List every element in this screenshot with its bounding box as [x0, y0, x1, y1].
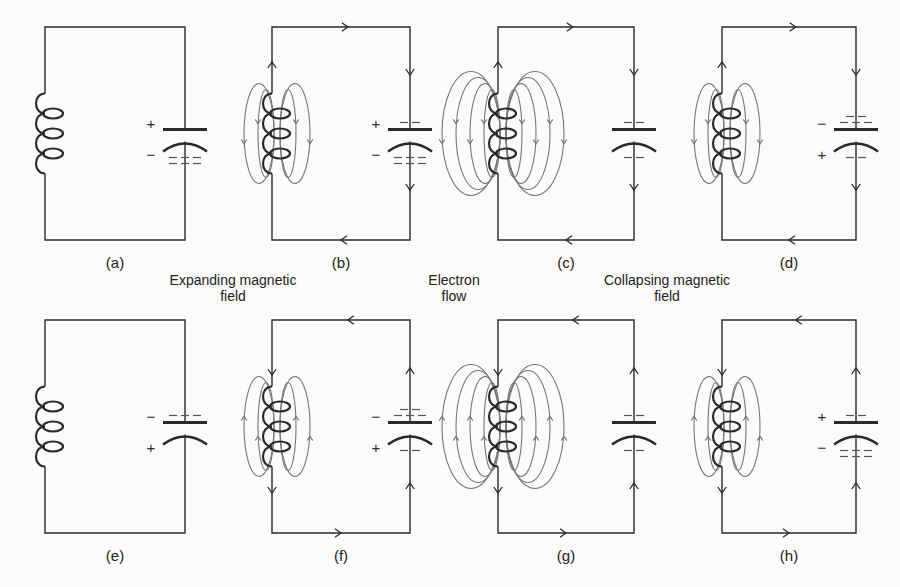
inductor-coil-icon: [489, 94, 516, 174]
wire: [272, 320, 410, 423]
caption-collapsing-line2: field: [604, 288, 730, 304]
wire: [722, 320, 856, 423]
inductor-coil-icon: [713, 387, 740, 467]
panel-label-e: (e): [106, 547, 124, 564]
inductor-coil-icon: [36, 94, 63, 174]
circuit-panel-c: [439, 23, 656, 244]
polarity-sign: +: [147, 439, 156, 456]
circuit-panel-f: −+: [241, 316, 432, 537]
panel-label-f: (f): [334, 547, 348, 564]
polarity-sign: +: [818, 408, 827, 425]
magnetic-field-lines-icon: [439, 365, 567, 489]
panel-label-d: (d): [780, 254, 798, 271]
caption-expanding-line2: field: [170, 288, 297, 304]
wire: [722, 435, 856, 534]
polarity-sign: +: [372, 439, 381, 456]
caption-electron-flow: Electron flow: [428, 272, 479, 304]
panel-label-h: (h): [780, 547, 798, 564]
circuit-panel-a: +−: [36, 27, 207, 240]
wire: [45, 27, 185, 130]
polarity-sign: +: [147, 115, 156, 132]
wire: [498, 435, 634, 534]
wire: [45, 142, 185, 241]
panel-label-c: (c): [557, 254, 575, 271]
magnetic-field-lines-icon: [241, 84, 313, 184]
panel-label-b: (b): [332, 254, 350, 271]
wire: [272, 27, 410, 130]
wire: [498, 320, 634, 423]
polarity-sign: −: [818, 439, 827, 456]
wire: [498, 27, 634, 130]
inductor-coil-icon: [489, 387, 516, 467]
polarity-sign: −: [372, 146, 381, 163]
caption-expanding-line1: Expanding magnetic: [170, 272, 297, 288]
inductor-coil-icon: [36, 387, 63, 467]
magnetic-field-lines-icon: [439, 72, 567, 196]
inductor-coil-icon: [263, 94, 290, 174]
caption-collapsing-line1: Collapsing magnetic: [604, 272, 730, 288]
polarity-sign: +: [818, 146, 827, 163]
capacitor-icon: −+: [818, 115, 878, 163]
wire: [45, 320, 185, 423]
polarity-sign: −: [147, 408, 156, 425]
capacitor-icon: +−: [372, 115, 432, 164]
wire: [498, 142, 634, 241]
caption-electron-line2: flow: [428, 288, 479, 304]
inductor-coil-icon: [263, 387, 290, 467]
wire: [272, 435, 410, 534]
polarity-sign: −: [818, 115, 827, 132]
polarity-sign: −: [372, 408, 381, 425]
polarity-sign: −: [147, 146, 156, 163]
panel-label-a: (a): [106, 254, 124, 271]
caption-collapsing-field: Collapsing magnetic field: [604, 272, 730, 304]
wire: [45, 435, 185, 534]
caption-electron-line1: Electron: [428, 272, 479, 288]
circuit-panel-b: +−: [241, 23, 432, 244]
caption-expanding-field: Expanding magnetic field: [170, 272, 297, 304]
magnetic-field-lines-icon: [691, 377, 763, 477]
wire: [722, 27, 856, 130]
capacitor-icon: +−: [147, 115, 207, 164]
wire: [272, 142, 410, 241]
panel-label-g: (g): [557, 547, 575, 564]
circuit-panel-d: −+: [691, 23, 878, 244]
magnetic-field-lines-icon: [241, 377, 313, 477]
circuit-panel-h: +−: [691, 316, 878, 537]
capacitor-icon: −+: [147, 408, 207, 456]
capacitor-icon: −+: [372, 408, 432, 456]
capacitor-icon: +−: [818, 408, 878, 457]
wire: [722, 142, 856, 241]
inductor-coil-icon: [713, 94, 740, 174]
polarity-sign: +: [372, 115, 381, 132]
circuit-panel-e: −+: [36, 320, 207, 533]
circuit-panel-g: [439, 316, 656, 537]
magnetic-field-lines-icon: [691, 84, 763, 184]
